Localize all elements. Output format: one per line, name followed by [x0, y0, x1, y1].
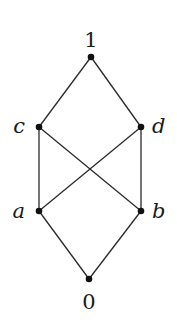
node-label-0: 0	[82, 290, 95, 314]
node-label-b: b	[152, 199, 165, 223]
node-c	[36, 124, 43, 131]
node-label-c: c	[13, 114, 25, 138]
node-b	[138, 208, 145, 215]
node-1	[88, 54, 95, 61]
node-d	[138, 124, 145, 131]
edge-1-c	[39, 57, 91, 127]
edge-a-0	[39, 211, 89, 279]
node-label-d: d	[152, 114, 165, 138]
edge-1-d	[91, 57, 141, 127]
edges	[39, 57, 141, 279]
labels: 1cdab0	[12, 28, 165, 314]
node-label-1: 1	[84, 28, 97, 52]
node-a	[36, 208, 43, 215]
node-0	[86, 276, 93, 283]
nodes	[36, 54, 145, 283]
node-label-a: a	[12, 199, 25, 223]
edge-b-0	[89, 211, 141, 279]
hasse-diagram: 1cdab0	[0, 0, 177, 329]
